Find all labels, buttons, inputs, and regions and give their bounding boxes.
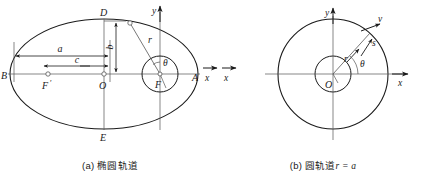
origin-tick-b xyxy=(333,74,338,83)
velocity-vector-b xyxy=(361,24,380,31)
x-axis-label-b: x xyxy=(397,78,403,88)
point-label-O: O xyxy=(99,80,106,91)
point-marker-F-prime xyxy=(46,72,50,76)
diagram-b-svg: x x y r s v θ xyxy=(220,0,426,150)
diagram-a-svg: y x a c b r xyxy=(0,0,220,150)
angle-theta-label-b: θ xyxy=(360,59,365,69)
y-axis-label-b: y xyxy=(324,8,330,18)
caption-b-text: 圆轨道 xyxy=(305,160,336,171)
point-label-F: F xyxy=(154,79,162,90)
caption-a-text: 椭圆轨道 xyxy=(97,160,138,171)
point-label-B: B xyxy=(1,70,7,81)
point-marker-O xyxy=(102,72,106,76)
figure-container: y x a c b r xyxy=(0,0,426,176)
x-axis-label-a: x xyxy=(204,73,210,83)
radius-vector-b xyxy=(347,49,359,62)
caption-a: (a) 椭圆轨道 xyxy=(0,158,220,172)
point-label-E: E xyxy=(99,132,106,143)
panel-elliptical-orbit: y x a c b r xyxy=(0,0,220,176)
point-label-F-prime-group: F ′ xyxy=(41,79,52,91)
point-label-O-b: O xyxy=(325,79,332,90)
dim-a-label: a xyxy=(58,43,63,54)
dim-c-label: c xyxy=(75,54,80,65)
radius-vector-a xyxy=(130,23,160,74)
radius-label-a: r xyxy=(148,34,152,45)
angle-theta-label-a: θ xyxy=(163,58,168,68)
point-marker-F xyxy=(158,72,162,76)
caption-b-prefix: (b) xyxy=(290,160,302,171)
orbiting-body-marker xyxy=(128,21,132,25)
point-label-F-prime: F xyxy=(41,80,49,91)
radius-label-b: r xyxy=(344,54,348,64)
arc-length-label-b: s xyxy=(372,38,376,48)
y-axis-label-a: y xyxy=(151,6,157,16)
panel-circular-orbit: x x y r s v θ xyxy=(220,0,426,176)
x-axis-label-a-spill: x xyxy=(223,73,229,83)
caption-b: (b) 圆轨道r = a xyxy=(220,158,426,172)
velocity-label-b: v xyxy=(378,14,383,24)
dim-b-label: b xyxy=(104,45,115,50)
prime-mark-a: ′ xyxy=(50,79,52,88)
caption-a-prefix: (a) xyxy=(82,160,94,171)
point-label-A: A xyxy=(191,72,199,83)
caption-b-math: r = a xyxy=(336,161,357,171)
point-label-D: D xyxy=(99,7,108,18)
